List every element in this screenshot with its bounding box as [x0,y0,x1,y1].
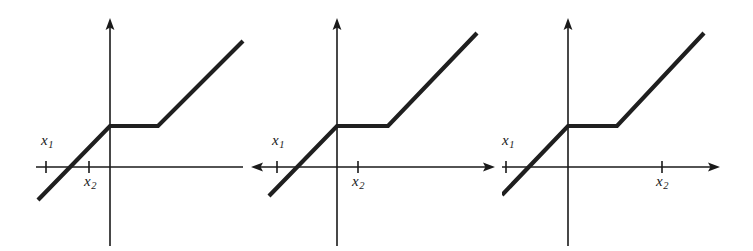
function-curve [38,41,243,200]
tick-label-x2-sub: 2 [663,180,668,191]
tick-label-x2-sub: 2 [91,180,96,191]
plot-svg-3 [502,0,753,251]
plot-svg-2 [251,0,502,251]
tick-label-x2-sub: 2 [359,180,364,191]
plot-panel-3: x1 x2 [502,0,753,251]
tick-label-x2: x2 [352,174,364,189]
figure-root: x1 x2 x1 x2 [0,0,753,251]
tick-label-x2-base: x [352,173,359,189]
function-curve [269,33,477,196]
plot-panel-1: x1 x2 [0,0,251,251]
tick-label-x1-sub: 1 [48,139,53,150]
plot-svg-1 [0,0,251,251]
tick-label-x1-base: x [41,132,48,148]
plot-panel-2: x1 x2 [251,0,502,251]
tick-label-x1-base: x [272,132,279,148]
function-curve [502,33,704,195]
tick-label-x2-base: x [84,173,91,189]
tick-label-x1-base: x [502,132,509,148]
tick-label-x2: x2 [84,174,96,189]
tick-label-x2: x2 [656,174,668,189]
tick-label-x2-base: x [656,173,663,189]
tick-label-x1-sub: 1 [279,139,284,150]
tick-label-x1: x1 [272,133,284,148]
tick-label-x1: x1 [502,133,514,148]
tick-label-x1: x1 [41,133,53,148]
tick-label-x1-sub: 1 [509,139,514,150]
